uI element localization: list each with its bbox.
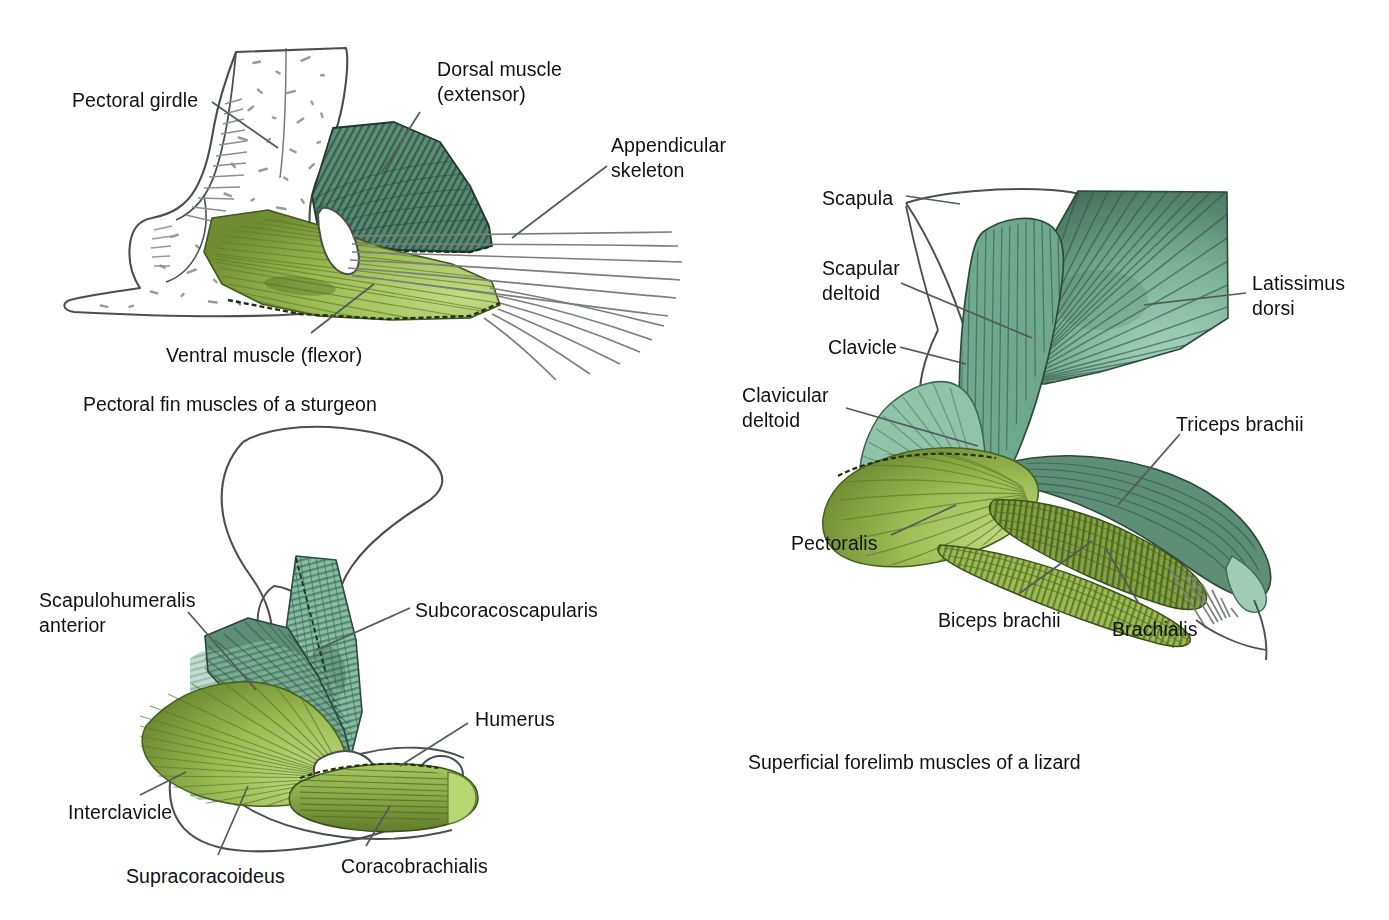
- label-clavicle: Clavicle: [828, 335, 897, 360]
- label-coracobrachialis: Coracobrachialis: [341, 854, 488, 879]
- label-pectoralis: Pectoralis: [791, 531, 878, 556]
- label-triceps-brachii: Triceps brachii: [1176, 412, 1304, 437]
- leader-appendicular-skeleton: [512, 166, 607, 238]
- label-scapular-deltoid: Scapular deltoid: [822, 256, 900, 306]
- label-subcoracoscapularis: Subcoracoscapularis: [415, 598, 598, 623]
- label-supracoracoideus: Supracoracoideus: [126, 864, 285, 889]
- caption-sturgeon: Pectoral fin muscles of a sturgeon: [83, 392, 377, 417]
- label-clavicular-deltoid: Clavicular deltoid: [742, 383, 829, 433]
- label-ventral-muscle-flexor: Ventral muscle (flexor): [166, 343, 362, 368]
- label-interclavicle: Interclavicle: [68, 800, 172, 825]
- label-pectoral-girdle: Pectoral girdle: [72, 88, 198, 113]
- label-appendicular-skeleton: Appendicular skeleton: [611, 133, 726, 183]
- label-scapulohumeralis-anterior: Scapulohumeralis anterior: [39, 588, 196, 638]
- label-scapula: Scapula: [822, 186, 893, 211]
- caption-lizard: Superficial forelimb muscles of a lizard: [748, 750, 1081, 775]
- salamander-diagram: [140, 427, 480, 855]
- figure-canvas: (gills) Dorsal and ventral portions of t…: [0, 0, 1389, 920]
- leader-clavicle: [900, 347, 966, 364]
- label-brachialis: Brachialis: [1112, 617, 1198, 642]
- label-latissimus-dorsi: Latissimus dorsi: [1252, 271, 1345, 321]
- label-dorsal-muscle-extensor: Dorsal muscle (extensor): [437, 57, 562, 107]
- label-biceps-brachii: Biceps brachii: [938, 608, 1061, 633]
- label-humerus: Humerus: [475, 707, 555, 732]
